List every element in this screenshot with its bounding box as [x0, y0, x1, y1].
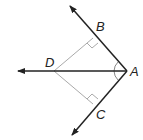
- label-b: B: [96, 19, 105, 34]
- geometry-diagram: B A D C: [0, 0, 143, 140]
- right-angle-mark-b: [87, 43, 98, 48]
- ray-ab: [70, 6, 127, 71]
- right-angle-mark-c: [87, 94, 98, 99]
- label-c: C: [96, 107, 106, 122]
- angle-arc-dac: [114, 71, 118, 80]
- ray-ac: [72, 71, 127, 135]
- label-a: A: [129, 64, 139, 79]
- label-d: D: [45, 55, 54, 70]
- angle-arc-bad: [114, 62, 118, 71]
